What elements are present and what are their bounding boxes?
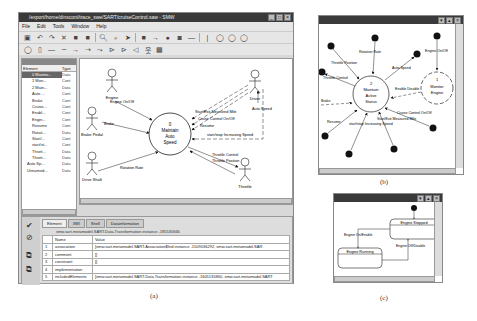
svg-text:Start/Exit Measured Mile: Start/Exit Measured Mile [195, 110, 236, 114]
ellipse-icon[interactable]: ◯ [23, 45, 32, 54]
svg-text:Rotation Rate: Rotation Rate [359, 50, 381, 54]
undo-icon[interactable]: ↶ [35, 33, 44, 42]
include-icon[interactable]: ⊳ [107, 45, 116, 54]
menu-tools[interactable]: Tools [53, 22, 65, 31]
tab-shell[interactable]: Shell [86, 219, 105, 228]
horizontal-scrollbar[interactable] [319, 168, 456, 174]
dot-icon[interactable]: ● [163, 33, 172, 42]
figure-caption-b: (b) [380, 178, 388, 186]
bar-icon[interactable]: | [203, 33, 212, 42]
vertical-scrollbar[interactable] [455, 24, 463, 168]
line-icon[interactable]: — [187, 33, 196, 42]
tab-xmi[interactable]: XMI [68, 219, 85, 228]
zoom-in-icon[interactable]: 🔍︎ [99, 33, 108, 42]
window-icon[interactable]: ⧉ [26, 251, 32, 261]
tab-datainformation[interactable]: Datainformation [106, 219, 144, 228]
menu-edit[interactable]: Edit [37, 22, 46, 31]
svg-text:Maintain: Maintain [161, 128, 179, 133]
arrow-icon[interactable]: → [71, 45, 80, 54]
tree-col-type[interactable]: Type [62, 65, 76, 71]
menu-help[interactable]: Help [96, 22, 106, 31]
menu-file[interactable]: File [22, 22, 30, 31]
maximize-button[interactable]: □ [276, 14, 283, 21]
actor-brake-pedal-label: Brake Pedal [81, 132, 103, 137]
tab-element[interactable]: Element [42, 219, 67, 228]
table-row[interactable]: 2comment[] [43, 251, 290, 259]
redo-icon[interactable]: ↷ [47, 33, 56, 42]
svg-text:Engine Off/Disable: Engine Off/Disable [396, 244, 425, 248]
copy-icon[interactable]: ■ [71, 33, 80, 42]
smw-main-window: /export/home/dinsconi/trace_swe/SART/cru… [18, 12, 294, 284]
dashed-arrow-icon[interactable]: ⇢ [83, 45, 92, 54]
maximize-button[interactable]: ▴ [425, 195, 432, 202]
cancel-icon[interactable]: ⊘ [26, 233, 33, 242]
svg-text:Enable Disable: Enable Disable [395, 87, 419, 91]
data-flow-diagram: 0 Maintain Auto Speed Engine Brake Pedal… [80, 59, 292, 198]
table-row[interactable]: 4implementation [43, 266, 290, 274]
minimize-button[interactable]: _ [268, 14, 275, 21]
box-icon[interactable]: ▩ [155, 45, 164, 54]
minimize-button[interactable]: ▾ [438, 17, 445, 24]
circle-icon[interactable]: ◯ [239, 33, 248, 42]
circle-icon[interactable]: ◯ [227, 33, 236, 42]
svg-text:Brake: Brake [321, 99, 330, 103]
svg-text:Throttle Position: Throttle Position [331, 61, 357, 65]
element-caption: smw.sart.metamodel.SART.Data.Transformat… [56, 229, 180, 234]
tree-row[interactable]: Unnamed...Data [22, 168, 76, 174]
window-icon[interactable]: ⧉ [26, 265, 32, 275]
close-button[interactable]: × [454, 17, 461, 24]
svg-text:Engine Stopped: Engine Stopped [400, 221, 427, 225]
maximize-button[interactable]: ▴ [446, 17, 453, 24]
state-diagram-window-c: ▾ ▴ × Engine Stopped Engine Running Engi… [333, 193, 443, 283]
state-icon[interactable]: ◙ [175, 33, 184, 42]
svg-text:Brake: Brake [104, 122, 114, 126]
extend-icon[interactable]: ⊳ [119, 45, 128, 54]
window-title: /export/home/dinsconi/trace_swe/SART/cru… [29, 14, 175, 20]
svg-text:Auto Speed: Auto Speed [392, 66, 411, 70]
actor-icon[interactable]: 웃 [143, 45, 152, 54]
zoom-out-icon[interactable]: ⌕ [111, 33, 120, 42]
svg-text:start/stop Increasing Speed: start/stop Increasing Speed [207, 133, 253, 137]
pointer-icon[interactable]: ➤ [123, 33, 132, 42]
dashed-line-icon[interactable]: ┄ [59, 45, 68, 54]
main-toolbar: ▣ ↶ ↷ ✕ ■ ■ 🔍︎ ⌕ ➤ ■ → ● ◙ — | ◯ ◯ ◯ [19, 31, 293, 43]
minimize-button[interactable]: ▾ [417, 195, 424, 202]
actor-link-icon[interactable]: ⤳ [95, 45, 104, 54]
table-row[interactable]: 1association[smw.sart.metamodel.SART.Ass… [43, 243, 290, 251]
arrow-icon[interactable]: → [151, 33, 160, 42]
svg-text:Engine: Engine [431, 90, 444, 95]
tree-col-name[interactable]: Element [22, 65, 62, 71]
rectangle-icon[interactable]: ■ [139, 33, 148, 42]
properties-tabs: Element XMI Shell Datainformation [42, 219, 144, 228]
dfd-canvas[interactable]: 0 Maintain Auto Speed Engine Brake Pedal… [79, 58, 293, 205]
svg-text:Start/Exit Measured Mile: Start/Exit Measured Mile [377, 117, 416, 121]
save-icon[interactable]: ▣ [23, 33, 32, 42]
svg-text:Engine On/Enable: Engine On/Enable [344, 233, 372, 237]
close-button[interactable]: × [284, 14, 291, 21]
paste-icon[interactable]: ■ [83, 33, 92, 42]
svg-text:Status: Status [365, 99, 376, 104]
col-name[interactable]: Name [53, 236, 93, 244]
state-diagram: Engine Stopped Engine Running Engine On/… [334, 202, 434, 276]
tree-horizontal-scrollbar[interactable] [22, 209, 76, 215]
line-icon[interactable]: — [47, 45, 56, 54]
check-icon[interactable]: ✔ [26, 221, 33, 230]
menu-window[interactable]: Window [71, 22, 89, 31]
generalize-icon[interactable]: ◁ [131, 45, 140, 54]
horizontal-scrollbar[interactable] [334, 276, 435, 282]
svg-text:Throttle Control: Throttle Control [323, 76, 348, 80]
figure-caption-c: (c) [380, 294, 388, 302]
circle-icon[interactable]: ◯ [215, 33, 224, 42]
col-value[interactable]: Value [93, 236, 290, 244]
svg-text:Auto Speed: Auto Speed [252, 107, 272, 111]
canvas-horizontal-scrollbar[interactable] [80, 198, 292, 204]
svg-text:Monitor: Monitor [430, 84, 444, 89]
svg-text:Throttle Position: Throttle Position [212, 159, 239, 163]
diagram-toolbar: ◯ ▯ — ┄ → ⇢ ⤳ ⊳ ⊳ ◁ 웃 ▩ [19, 43, 293, 55]
close-button[interactable]: × [433, 195, 440, 202]
vertical-scrollbar[interactable] [434, 202, 442, 276]
table-row[interactable]: 5includedElements[smw.sart.metamodel.SAR… [43, 273, 290, 281]
cut-icon[interactable]: ✕ [59, 33, 68, 42]
table-row[interactable]: 3constraint[] [43, 258, 290, 266]
note-icon[interactable]: ▯ [35, 45, 44, 54]
